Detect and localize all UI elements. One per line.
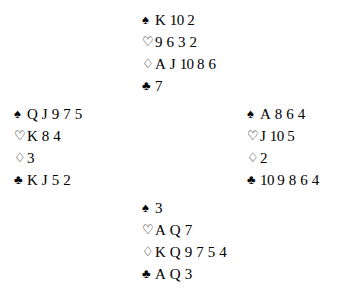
- diamond-suit-symbol: ♢: [247, 151, 259, 164]
- hand-west: ♠QJ975♡K84♢3♣KJ52: [14, 107, 83, 195]
- card-rank: 9: [185, 245, 193, 260]
- card-holding-east-spades: A864: [260, 107, 306, 122]
- card-rank: 6: [300, 173, 308, 188]
- club-suit-symbol: ♣: [247, 173, 259, 186]
- hand-south: ♠3♡AQ7♢KQ9754♣AQ3: [142, 201, 227, 289]
- card-rank: 9: [52, 107, 60, 122]
- heart-suit-symbol: ♡: [142, 223, 154, 236]
- card-holding-south-clubs: AQ3: [155, 267, 193, 282]
- card-rank: A: [260, 107, 271, 122]
- card-rank: 6: [286, 107, 294, 122]
- suit-row-south-clubs: ♣AQ3: [142, 267, 227, 289]
- suit-row-south-spades: ♠3: [142, 201, 227, 223]
- spade-suit-symbol: ♠: [142, 201, 154, 214]
- card-rank: K: [155, 245, 166, 260]
- card-holding-north-hearts: 9632: [155, 35, 198, 50]
- card-rank: 3: [155, 201, 163, 216]
- spade-suit-symbol: ♠: [247, 107, 259, 120]
- card-holding-north-spades: K102: [155, 13, 195, 28]
- spade-suit-symbol: ♠: [14, 107, 26, 120]
- bridge-deal-diagram: ♠K102♡9632♢AJ1086♣7 ♠QJ975♡K84♢3♣KJ52 ♠A…: [0, 0, 357, 298]
- card-rank: 2: [63, 173, 71, 188]
- card-rank: 7: [185, 223, 193, 238]
- club-suit-symbol: ♣: [142, 267, 154, 280]
- card-rank: Q: [170, 223, 181, 238]
- suit-row-east-spades: ♠A864: [247, 107, 320, 129]
- suit-row-east-diamonds: ♢2: [247, 151, 320, 173]
- card-holding-west-spades: QJ975: [27, 107, 83, 122]
- heart-suit-symbol: ♡: [14, 129, 26, 142]
- card-rank: 5: [75, 107, 83, 122]
- card-rank: 7: [155, 79, 163, 94]
- card-holding-south-diamonds: KQ9754: [155, 245, 227, 260]
- suit-row-north-spades: ♠K102: [142, 13, 217, 35]
- suit-row-south-diamonds: ♢KQ9754: [142, 245, 227, 267]
- card-holding-west-diamonds: 3: [27, 151, 35, 166]
- card-rank: 10: [180, 57, 194, 72]
- hand-north: ♠K102♡9632♢AJ1086♣7: [142, 13, 217, 101]
- suit-row-west-hearts: ♡K84: [14, 129, 83, 151]
- suit-row-west-clubs: ♣KJ52: [14, 173, 83, 195]
- card-rank: 8: [197, 57, 205, 72]
- card-rank: 6: [167, 35, 175, 50]
- card-rank: 8: [42, 129, 50, 144]
- card-rank: J: [42, 173, 48, 188]
- card-rank: 8: [289, 173, 297, 188]
- card-rank: 9: [155, 35, 163, 50]
- suit-row-south-hearts: ♡AQ7: [142, 223, 227, 245]
- club-suit-symbol: ♣: [14, 173, 26, 186]
- card-rank: 2: [187, 13, 195, 28]
- card-rank: 10: [260, 173, 274, 188]
- card-rank: 4: [53, 129, 61, 144]
- suit-row-east-clubs: ♣109864: [247, 173, 320, 195]
- card-rank: 6: [209, 57, 217, 72]
- card-rank: 5: [287, 129, 295, 144]
- hand-east: ♠A864♡J105♢2♣109864: [247, 107, 320, 195]
- card-rank: A: [155, 57, 166, 72]
- card-holding-north-diamonds: AJ1086: [155, 57, 217, 72]
- card-rank: 10: [270, 129, 284, 144]
- card-rank: K: [27, 173, 38, 188]
- card-rank: 3: [178, 35, 186, 50]
- card-holding-east-diamonds: 2: [260, 151, 268, 166]
- card-rank: 4: [312, 173, 320, 188]
- card-rank: Q: [170, 267, 181, 282]
- suit-row-west-spades: ♠QJ975: [14, 107, 83, 129]
- card-rank: 4: [219, 245, 227, 260]
- card-rank: 7: [196, 245, 204, 260]
- card-holding-north-clubs: 7: [155, 79, 163, 94]
- diamond-suit-symbol: ♢: [142, 57, 154, 70]
- suit-row-north-clubs: ♣7: [142, 79, 217, 101]
- card-holding-west-clubs: KJ52: [27, 173, 71, 188]
- heart-suit-symbol: ♡: [142, 35, 154, 48]
- card-rank: 3: [27, 151, 35, 166]
- diamond-suit-symbol: ♢: [14, 151, 26, 164]
- card-rank: 7: [63, 107, 71, 122]
- card-holding-east-hearts: J105: [260, 129, 295, 144]
- card-rank: 2: [260, 151, 268, 166]
- card-rank: 5: [208, 245, 216, 260]
- card-rank: 4: [298, 107, 306, 122]
- diamond-suit-symbol: ♢: [142, 245, 154, 258]
- club-suit-symbol: ♣: [142, 79, 154, 92]
- card-rank: A: [155, 267, 166, 282]
- suit-row-east-hearts: ♡J105: [247, 129, 320, 151]
- card-rank: J: [260, 129, 266, 144]
- card-holding-south-spades: 3: [155, 201, 163, 216]
- card-rank: Q: [170, 245, 181, 260]
- suit-row-north-hearts: ♡9632: [142, 35, 217, 57]
- card-rank: 10: [170, 13, 184, 28]
- card-rank: K: [155, 13, 166, 28]
- card-rank: Q: [27, 107, 38, 122]
- card-rank: 2: [190, 35, 198, 50]
- spade-suit-symbol: ♠: [142, 13, 154, 26]
- card-holding-east-clubs: 109864: [260, 173, 320, 188]
- card-rank: 5: [52, 173, 60, 188]
- card-holding-south-hearts: AQ7: [155, 223, 193, 238]
- card-rank: 3: [185, 267, 193, 282]
- card-rank: J: [42, 107, 48, 122]
- card-holding-west-hearts: K84: [27, 129, 61, 144]
- card-rank: 9: [277, 173, 285, 188]
- suit-row-west-diamonds: ♢3: [14, 151, 83, 173]
- heart-suit-symbol: ♡: [247, 129, 259, 142]
